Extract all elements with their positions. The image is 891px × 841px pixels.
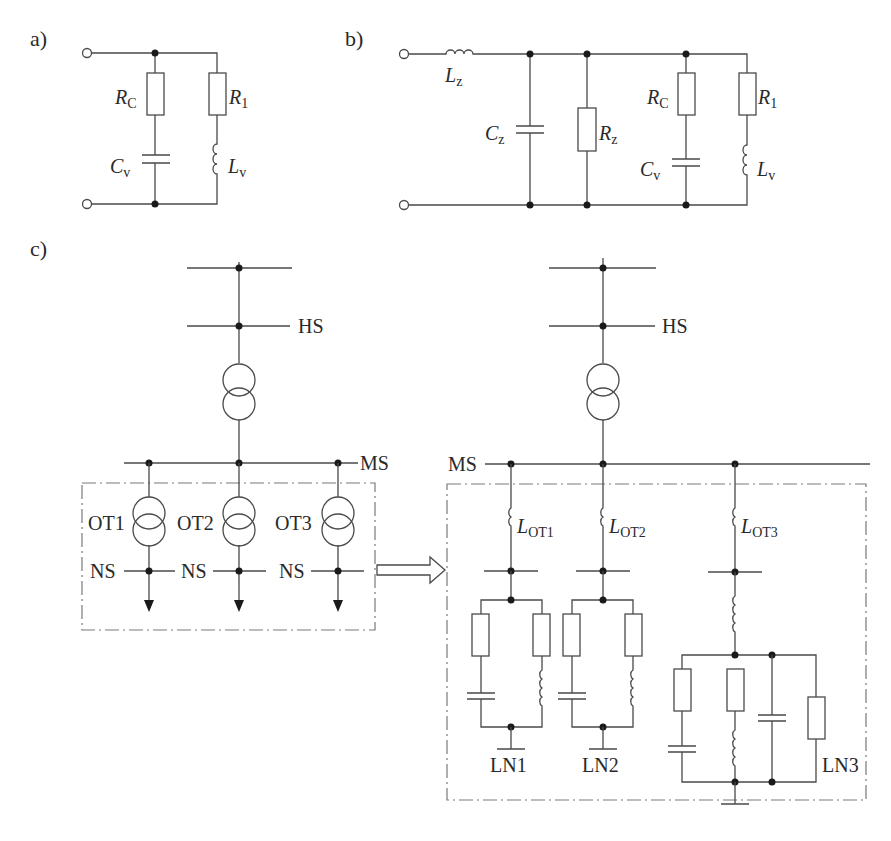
ns2-label: NS xyxy=(181,560,207,582)
label-cz: Cz xyxy=(485,122,505,147)
capacitor-cv xyxy=(142,115,170,204)
ms-label: MS xyxy=(360,452,389,474)
ot2 xyxy=(213,463,266,612)
label-cv: Cv xyxy=(110,155,130,180)
panel-c-label: c) xyxy=(30,236,47,261)
branch-ln1: LN1 xyxy=(467,464,550,776)
label-rc: RC xyxy=(114,86,137,111)
main-transformer-right xyxy=(587,364,619,396)
inductor-lv xyxy=(213,115,217,182)
label-lot1: LOT1 xyxy=(516,515,554,540)
main-transformer xyxy=(223,364,255,396)
resistor-rc xyxy=(678,73,695,115)
resistor-rc xyxy=(147,73,164,115)
ot3 xyxy=(311,463,364,612)
inductor-lz xyxy=(409,50,747,73)
panel-a-label: a) xyxy=(30,26,47,51)
resistor-rz xyxy=(578,108,596,151)
ms-label-right: MS xyxy=(448,453,477,475)
hs-label-right: HS xyxy=(662,315,688,337)
branch-ln3: LN3 xyxy=(668,464,859,804)
resistor-r1 xyxy=(209,73,226,115)
panel-a: a) RC R1 Cv Lv xyxy=(30,26,248,209)
circuit-diagram: a) RC R1 Cv Lv b) xyxy=(0,0,891,841)
capacitor-cz xyxy=(516,54,544,205)
inductor-lv xyxy=(743,115,747,182)
ln1-label: LN1 xyxy=(490,754,527,776)
ot1-label: OT1 xyxy=(88,512,125,534)
label-lv: Lv xyxy=(756,158,775,183)
equivalence-arrow-icon xyxy=(377,557,445,583)
label-rc: RC xyxy=(646,86,669,111)
ot3-label: OT3 xyxy=(275,512,312,534)
ns1-label: NS xyxy=(90,560,116,582)
panel-c-left: c) HS MS xyxy=(30,236,389,630)
panel-c-right: HS MS LN1 LN2 xyxy=(447,258,870,804)
ln3-label: LN3 xyxy=(822,754,859,776)
bottom-rail xyxy=(409,182,747,205)
ns3-label: NS xyxy=(279,560,305,582)
label-rz: Rz xyxy=(598,122,617,147)
substation-group-box xyxy=(82,483,375,630)
label-lv: Lv xyxy=(227,155,246,180)
label-lot3: LOT3 xyxy=(740,515,778,540)
label-r1: R1 xyxy=(757,86,777,111)
panel-b-label: b) xyxy=(345,26,363,51)
ot2-label: OT2 xyxy=(177,512,214,534)
equivalent-model-box xyxy=(447,484,866,800)
hs-label: HS xyxy=(298,315,324,337)
terminal-top xyxy=(83,49,92,58)
label-lz: Lz xyxy=(444,64,462,89)
label-r1: R1 xyxy=(228,86,248,111)
panel-b: b) Lz Cz Rz RC R1 Cv Lv xyxy=(345,26,777,210)
label-lot2: LOT2 xyxy=(608,515,646,540)
label-cv: Cv xyxy=(640,158,660,183)
terminal-bottom xyxy=(400,201,409,210)
terminal-top xyxy=(400,50,409,59)
ln2-label: LN2 xyxy=(582,754,619,776)
ot1 xyxy=(124,463,175,612)
branch-ln2: LN2 xyxy=(558,464,642,776)
resistor-r1 xyxy=(739,73,756,115)
terminal-bottom xyxy=(83,200,92,209)
